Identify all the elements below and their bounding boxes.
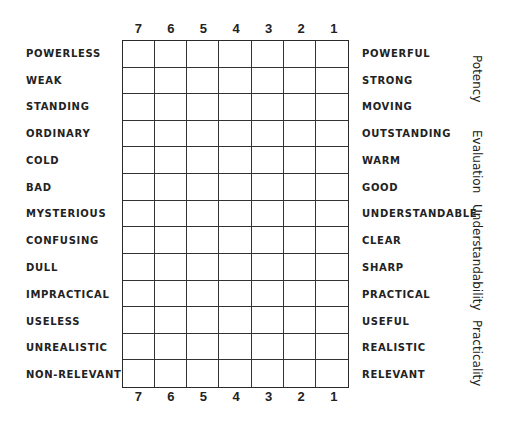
rating-cell[interactable] (316, 201, 348, 228)
rating-cell[interactable] (123, 254, 155, 281)
rating-cell[interactable] (219, 281, 251, 308)
rating-cell[interactable] (284, 307, 316, 334)
rating-cell[interactable] (187, 360, 219, 387)
scale-number: 2 (285, 389, 318, 404)
right-adjective: MOVING (362, 94, 477, 121)
rating-cell[interactable] (284, 254, 316, 281)
rating-cell[interactable] (123, 68, 155, 95)
rating-cell[interactable] (316, 307, 348, 334)
rating-cell[interactable] (252, 307, 284, 334)
rating-cell[interactable] (316, 360, 348, 387)
rating-cell[interactable] (219, 94, 251, 121)
rating-cell[interactable] (123, 227, 155, 254)
rating-cell[interactable] (155, 227, 187, 254)
rating-cell[interactable] (187, 201, 219, 228)
rating-cell[interactable] (187, 94, 219, 121)
rating-cell[interactable] (155, 281, 187, 308)
rating-cell[interactable] (187, 334, 219, 361)
rating-cell[interactable] (252, 201, 284, 228)
rating-cell[interactable] (219, 360, 251, 387)
rating-cell[interactable] (187, 307, 219, 334)
rating-cell[interactable] (187, 121, 219, 148)
rating-cell[interactable] (187, 254, 219, 281)
rating-cell[interactable] (123, 41, 155, 68)
rating-cell[interactable] (284, 41, 316, 68)
rating-cell[interactable] (252, 281, 284, 308)
right-adjective: CLEAR (362, 227, 477, 254)
rating-cell[interactable] (123, 281, 155, 308)
rating-cell[interactable] (316, 121, 348, 148)
rating-cell[interactable] (123, 121, 155, 148)
rating-cell[interactable] (123, 201, 155, 228)
factor-label-potency: Potency (470, 55, 484, 103)
right-adjective-list: POWERFUL STRONG MOVING OUTSTANDING WARM … (362, 40, 477, 388)
rating-cell[interactable] (219, 227, 251, 254)
scale-number: 5 (187, 389, 220, 404)
left-adjective: CONFUSING (26, 227, 122, 254)
rating-cell[interactable] (123, 360, 155, 387)
rating-cell[interactable] (284, 201, 316, 228)
rating-cell[interactable] (155, 68, 187, 95)
rating-cell[interactable] (252, 147, 284, 174)
rating-cell[interactable] (187, 147, 219, 174)
rating-cell[interactable] (252, 334, 284, 361)
rating-cell[interactable] (155, 94, 187, 121)
rating-cell[interactable] (219, 201, 251, 228)
rating-cell[interactable] (219, 41, 251, 68)
rating-cell[interactable] (252, 94, 284, 121)
rating-cell[interactable] (252, 41, 284, 68)
rating-cell[interactable] (284, 94, 316, 121)
rating-cell[interactable] (219, 147, 251, 174)
rating-cell[interactable] (123, 94, 155, 121)
rating-cell[interactable] (187, 227, 219, 254)
rating-cell[interactable] (155, 201, 187, 228)
rating-cell[interactable] (316, 281, 348, 308)
rating-cell[interactable] (316, 227, 348, 254)
rating-cell[interactable] (316, 254, 348, 281)
rating-cell[interactable] (155, 254, 187, 281)
rating-cell[interactable] (155, 334, 187, 361)
rating-cell[interactable] (316, 147, 348, 174)
rating-cell[interactable] (123, 174, 155, 201)
rating-cell[interactable] (284, 227, 316, 254)
rating-cell[interactable] (187, 174, 219, 201)
rating-cell[interactable] (284, 334, 316, 361)
rating-cell[interactable] (155, 147, 187, 174)
rating-cell[interactable] (187, 281, 219, 308)
rating-cell[interactable] (284, 121, 316, 148)
right-adjective: SHARP (362, 254, 477, 281)
rating-cell[interactable] (284, 281, 316, 308)
rating-cell[interactable] (284, 174, 316, 201)
rating-cell[interactable] (252, 254, 284, 281)
rating-cell[interactable] (252, 360, 284, 387)
rating-cell[interactable] (316, 41, 348, 68)
rating-cell[interactable] (219, 121, 251, 148)
rating-cell[interactable] (219, 254, 251, 281)
rating-cell[interactable] (187, 68, 219, 95)
rating-cell[interactable] (316, 334, 348, 361)
rating-cell[interactable] (316, 174, 348, 201)
rating-cell[interactable] (123, 147, 155, 174)
rating-cell[interactable] (155, 174, 187, 201)
rating-cell[interactable] (252, 121, 284, 148)
rating-cell[interactable] (155, 307, 187, 334)
rating-cell[interactable] (155, 121, 187, 148)
rating-cell[interactable] (316, 94, 348, 121)
rating-cell[interactable] (155, 41, 187, 68)
rating-cell[interactable] (219, 68, 251, 95)
rating-cell[interactable] (219, 307, 251, 334)
rating-cell[interactable] (219, 174, 251, 201)
rating-cell[interactable] (187, 41, 219, 68)
rating-cell[interactable] (219, 334, 251, 361)
rating-cell[interactable] (284, 68, 316, 95)
rating-cell[interactable] (316, 68, 348, 95)
rating-cell[interactable] (123, 334, 155, 361)
rating-cell[interactable] (252, 174, 284, 201)
rating-cell[interactable] (252, 68, 284, 95)
rating-cell[interactable] (252, 227, 284, 254)
rating-cell[interactable] (284, 147, 316, 174)
scale-number: 4 (220, 389, 253, 404)
rating-cell[interactable] (284, 360, 316, 387)
rating-cell[interactable] (155, 360, 187, 387)
rating-cell[interactable] (123, 307, 155, 334)
